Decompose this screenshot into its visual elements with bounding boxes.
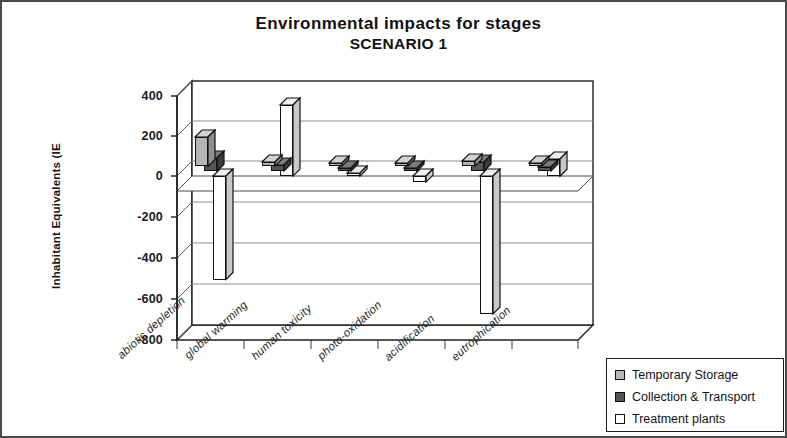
page-frame: Environmental impacts for stages SCENARI…	[0, 0, 787, 438]
ytick-label-400: 400	[117, 89, 163, 103]
page-inner: Environmental impacts for stages SCENARI…	[5, 5, 782, 433]
bar-abiotic-depletion-treatment-plants	[213, 176, 226, 280]
ytick-label-m200: -200	[117, 210, 163, 224]
bar-photo-oxidation-collection-transport	[404, 168, 417, 171]
ytick-label-200: 200	[117, 129, 163, 143]
legend-item-collection-transport: Collection & Transport	[615, 386, 777, 408]
bar-human-toxicity-temporary-storage	[329, 163, 342, 166]
ytick-label-0: 0	[117, 169, 163, 183]
bar-abiotic-depletion-temporary-storage	[195, 137, 208, 166]
bar-photo-oxidation-temporary-storage	[395, 163, 408, 166]
bar-global-warming-temporary-storage	[262, 162, 275, 166]
legend-item-treatment-plants: Treatment plants	[615, 408, 777, 430]
ytick-label-m400: -400	[117, 251, 163, 265]
legend-item-temporary-storage: Temporary Storage	[615, 364, 777, 386]
bar-eutrophication-temporary-storage	[529, 163, 542, 166]
legend-swatch-icon-collection-transport	[615, 392, 625, 402]
chart-legend: Temporary Storage Collection & Transport…	[606, 358, 784, 432]
legend-label-collection-transport: Collection & Transport	[632, 390, 755, 404]
bar-human-toxicity-collection-transport	[338, 168, 351, 171]
bar-photo-oxidation-treatment-plants	[413, 176, 426, 182]
ytick-label-m600: -600	[117, 292, 163, 306]
legend-label-temporary-storage: Temporary Storage	[632, 368, 738, 382]
bar-acidification-temporary-storage	[462, 161, 475, 166]
legend-label-treatment-plants: Treatment plants	[632, 412, 725, 426]
bar-acidification-treatment-plants	[480, 176, 493, 314]
y-axis-title: Inhabitant Equivalents (IE	[50, 116, 62, 316]
legend-swatch-icon-temporary-storage	[615, 370, 625, 380]
bar-human-toxicity-treatment-plants	[347, 173, 360, 176]
legend-swatch-icon-treatment-plants	[615, 414, 625, 424]
